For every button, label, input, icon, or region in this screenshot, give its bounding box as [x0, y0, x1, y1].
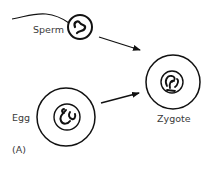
zygote-label: Zygote	[157, 114, 191, 124]
sperm-label: Sperm	[33, 25, 64, 35]
panel-label: (A)	[12, 145, 26, 155]
sperm-tail	[12, 14, 69, 23]
sperm-head	[68, 15, 92, 39]
zygote-cell	[146, 55, 200, 109]
arrow-sperm-to-zygote	[99, 37, 140, 50]
egg-label: Egg	[12, 113, 30, 123]
arrow-egg-to-zygote	[101, 93, 139, 103]
egg-cell	[37, 88, 95, 146]
